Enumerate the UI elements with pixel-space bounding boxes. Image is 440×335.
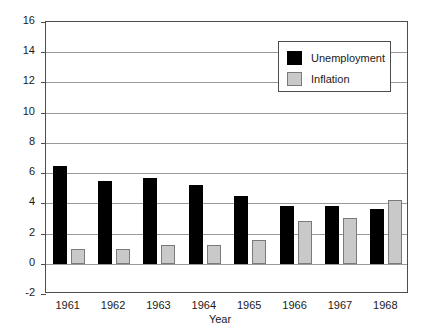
legend-swatch-unemployment bbox=[287, 51, 302, 65]
bar-inflation-1967 bbox=[343, 218, 357, 264]
y-tick-label: 12 bbox=[0, 74, 35, 86]
bar-inflation-1961 bbox=[71, 249, 85, 264]
y-tick-mark bbox=[41, 52, 46, 53]
y-tick-mark bbox=[41, 113, 46, 114]
bar-unemployment-1968 bbox=[370, 209, 384, 263]
bar-unemployment-1966 bbox=[280, 206, 294, 263]
y-tick-mark bbox=[41, 173, 46, 174]
y-tick-label: 10 bbox=[0, 105, 35, 117]
x-tick-label: 1968 bbox=[355, 299, 415, 311]
y-tick-mark bbox=[41, 264, 46, 265]
legend-item-inflation: Inflation bbox=[287, 68, 390, 89]
bar-inflation-1966 bbox=[298, 221, 312, 264]
y-tick-label: 14 bbox=[0, 44, 35, 56]
y-tick-label: 0 bbox=[0, 256, 35, 268]
y-tick-label: 6 bbox=[0, 165, 35, 177]
gridline bbox=[46, 264, 407, 265]
legend-item-unemployment: Unemployment bbox=[287, 47, 390, 68]
bar-inflation-1965 bbox=[252, 240, 266, 264]
y-tick-mark bbox=[41, 143, 46, 144]
gridline bbox=[46, 173, 407, 174]
y-tick-mark bbox=[41, 294, 46, 295]
chart-legend: Unemployment Inflation bbox=[278, 41, 391, 92]
bar-inflation-1964 bbox=[207, 245, 221, 264]
legend-swatch-inflation bbox=[287, 72, 302, 86]
y-tick-mark bbox=[41, 234, 46, 235]
bar-unemployment-1962 bbox=[98, 181, 112, 264]
y-tick-label: 2 bbox=[0, 226, 35, 238]
legend-label-unemployment: Unemployment bbox=[311, 52, 385, 64]
x-axis-title: Year bbox=[0, 313, 440, 325]
y-tick-label: 4 bbox=[0, 195, 35, 207]
y-tick-label: -2 bbox=[0, 286, 35, 298]
legend-label-inflation: Inflation bbox=[311, 73, 350, 85]
bar-chart: Percentage 1614121086420-2 Unemployment … bbox=[0, 0, 440, 335]
y-tick-label: 16 bbox=[0, 14, 35, 26]
bar-inflation-1962 bbox=[116, 249, 130, 264]
plot-area: Unemployment Inflation bbox=[45, 21, 408, 293]
bar-unemployment-1961 bbox=[53, 166, 67, 264]
bar-unemployment-1967 bbox=[325, 206, 339, 263]
bar-inflation-1968 bbox=[388, 200, 402, 263]
bar-unemployment-1963 bbox=[143, 178, 157, 264]
gridline bbox=[46, 113, 407, 114]
y-tick-mark bbox=[41, 203, 46, 204]
bar-unemployment-1964 bbox=[189, 185, 203, 264]
y-tick-mark bbox=[41, 22, 46, 23]
gridline bbox=[46, 143, 407, 144]
y-tick-label: 8 bbox=[0, 135, 35, 147]
bar-unemployment-1965 bbox=[234, 196, 248, 264]
bar-inflation-1963 bbox=[161, 245, 175, 264]
y-tick-mark bbox=[41, 82, 46, 83]
